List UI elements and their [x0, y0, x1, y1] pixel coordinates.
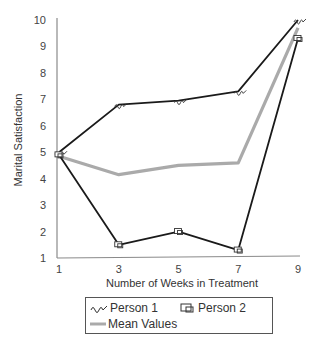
x-tick-label: 3 [116, 263, 122, 275]
squiggle-marker-icon [234, 90, 246, 95]
legend-item-person-2: Person 2 [180, 301, 246, 315]
y-tick-label: 10 [34, 14, 46, 26]
x-tick-labels: 13579 [56, 263, 301, 275]
y-tick-label: 5 [40, 146, 46, 158]
x-axis [57, 256, 300, 258]
y-tick-label: 2 [40, 226, 46, 238]
y-axis-title: Marital Satisfaction [12, 94, 24, 187]
x-tick-label: 7 [235, 263, 241, 275]
axes [57, 18, 300, 258]
legend-item-mean-values: Mean Values [90, 317, 177, 331]
x-axis-title: Number of Weeks in Treatment [106, 277, 258, 289]
legend-label: Person 1 [110, 301, 158, 315]
x-tick-label: 9 [295, 263, 301, 275]
y-tick-labels: 12345678910 [34, 14, 46, 264]
box-marker-icon [294, 36, 302, 42]
series-line-person-1 [59, 20, 298, 152]
legend-label: Mean Values [108, 317, 177, 331]
y-tick-label: 3 [40, 199, 46, 211]
line-chart: 12345678910 13579 Marital Satisfaction N… [0, 0, 320, 295]
legend: Person 1 Person 2 Mean Values [85, 297, 273, 334]
series-line-person-2 [59, 39, 298, 251]
squiggle-marker-icon [90, 303, 108, 313]
y-tick-label: 4 [40, 173, 46, 185]
y-tick-label: 7 [40, 93, 46, 105]
y-tick-label: 9 [40, 40, 46, 52]
legend-item-person-1: Person 1 [90, 301, 158, 315]
box-marker-icon [55, 152, 63, 158]
box-marker-icon [180, 303, 196, 313]
box-marker-icon [115, 242, 123, 248]
series-lines [55, 19, 306, 253]
box-marker-icon [175, 229, 183, 235]
legend-label: Person 2 [198, 301, 246, 315]
y-tick-label: 8 [40, 67, 46, 79]
box-marker-icon [234, 247, 242, 253]
x-tick-label: 1 [56, 263, 62, 275]
gray-line-marker-icon [90, 319, 106, 329]
y-tick-label: 6 [40, 120, 46, 132]
x-tick-label: 5 [175, 263, 181, 275]
y-tick-label: 1 [40, 252, 46, 264]
